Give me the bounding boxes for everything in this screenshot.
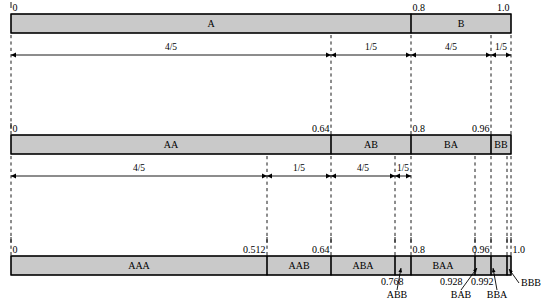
segment-label-AAB: AAB <box>288 260 309 271</box>
segment-label-A: A <box>207 18 215 29</box>
dashed-guide-lines <box>11 2 511 256</box>
measure-arrows: 4/51/54/51/54/51/54/51/5 <box>11 42 511 179</box>
measures-row2: 4/51/54/51/5 <box>11 163 411 179</box>
arrowhead-left <box>331 52 336 57</box>
bar-row2: AAABBABB00.640.80.96 <box>11 123 511 154</box>
tick-label-0-8: 0.8 <box>413 2 426 13</box>
measures-row1: 4/51/54/51/5 <box>11 42 511 58</box>
arrowhead-right <box>406 52 411 57</box>
arrowhead-left <box>331 173 336 178</box>
arrowhead-right <box>326 52 331 57</box>
segment-label-BB: BB <box>494 139 508 150</box>
value-callout-0-768: 0.768 <box>381 276 404 287</box>
tick-label-1-0: 1.0 <box>497 2 510 13</box>
arrowhead-right <box>262 173 267 178</box>
interval-subdivision-figure: AB00.81.0AAABBABB00.640.80.96AAAAABABABA… <box>0 0 551 302</box>
measure-label-4-5: 4/5 <box>133 163 145 173</box>
arrowhead-right <box>390 173 395 178</box>
segment-callout-BBB: BBB <box>521 277 541 288</box>
arrowhead-right <box>326 173 331 178</box>
tick-label-0: 0 <box>13 244 18 255</box>
measure-label-1-5: 1/5 <box>365 42 377 52</box>
tick-label-0-512: 0.512 <box>243 244 266 255</box>
measure-label-1-5: 1/5 <box>397 163 409 173</box>
arrowhead-right <box>506 52 511 57</box>
segment-label-AAA: AAA <box>128 260 150 271</box>
segment-label-BAA: BAA <box>432 260 454 271</box>
arrowhead-left <box>11 173 16 178</box>
arrowhead-right <box>406 173 411 178</box>
tick-label-0-64: 0.64 <box>312 244 330 255</box>
segment-label-AB: AB <box>364 139 378 150</box>
bar-row3: AAAAABABABAA00.5120.640.80.961.0 <box>11 244 525 275</box>
tick-label-0-8: 0.8 <box>413 123 426 134</box>
segment-callout-BBA: BBA <box>487 289 508 300</box>
arrowhead-left <box>491 52 496 57</box>
arrowhead-right <box>486 52 491 57</box>
tick-label-0-64: 0.64 <box>312 123 330 134</box>
measure-label-1-5: 1/5 <box>293 163 305 173</box>
value-callout-0-928: 0.928 <box>440 276 463 287</box>
measure-label-4-5: 4/5 <box>357 163 369 173</box>
segment-label-BA: BA <box>444 139 459 150</box>
segment-callout-ABB: ABB <box>387 289 408 300</box>
arrowhead-left <box>411 52 416 57</box>
tick-label-0-96: 0.96 <box>472 123 490 134</box>
measure-label-4-5: 4/5 <box>165 42 177 52</box>
tick-label-0: 0 <box>13 2 18 13</box>
segment-label-B: B <box>458 18 465 29</box>
arrowhead-left <box>11 52 16 57</box>
segment-label-AA: AA <box>164 139 179 150</box>
tick-label-0: 0 <box>13 123 18 134</box>
tick-label-1-0: 1.0 <box>513 244 526 255</box>
figure-canvas: AB00.81.0AAABBABB00.640.80.96AAAAABABABA… <box>0 0 551 302</box>
tick-label-0-8: 0.8 <box>413 244 426 255</box>
segment-label-ABA: ABA <box>352 260 374 271</box>
bar-row1: AB00.81.0 <box>11 2 511 33</box>
arrowhead-left <box>267 173 272 178</box>
measure-label-4-5: 4/5 <box>445 42 457 52</box>
tick-label-0-96: 0.96 <box>472 244 490 255</box>
arrowhead-left <box>395 173 400 178</box>
value-callout-0-992: 0.992 <box>471 276 494 287</box>
segment-callout-BAB: BAB <box>451 289 472 300</box>
measure-label-1-5: 1/5 <box>495 42 507 52</box>
bar-background <box>11 135 511 154</box>
bar-background <box>11 14 511 33</box>
